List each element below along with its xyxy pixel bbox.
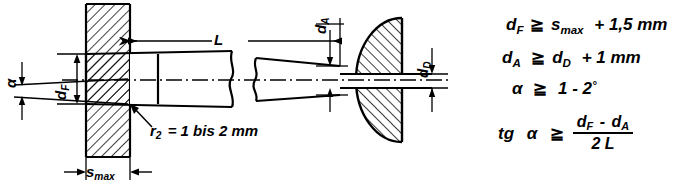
label-L: L — [214, 31, 223, 48]
formula-fraction: dF - dA 2 L — [573, 113, 633, 153]
label-smax: smax — [86, 163, 115, 182]
formula-line-1: dF ≧ smax + 1,5 mm — [506, 14, 668, 36]
formula-line-3: α ≧ 1 - 2° — [512, 78, 597, 99]
fraction-denominator: 2 L — [573, 132, 633, 153]
shaft-left-segment — [86, 51, 233, 107]
label-alpha: α — [2, 79, 19, 88]
formula-line-4: tg α ≧ dF - dA 2 L — [498, 114, 635, 154]
formula-block: dF ≧ smax + 1,5 mm dA ≧ dD + 1 mm α ≧ 1 … — [498, 14, 698, 184]
fraction-numerator: dF - dA — [573, 113, 633, 132]
radius-leader-line — [130, 104, 152, 127]
label-radius-note: r2 = 1 bis 2 mm — [150, 122, 258, 141]
formula-line-2: dA ≧ dD + 1 mm — [502, 47, 641, 69]
label-dA: dA — [312, 17, 331, 34]
label-dD: dD — [414, 61, 433, 78]
label-dF: dF — [52, 85, 71, 100]
